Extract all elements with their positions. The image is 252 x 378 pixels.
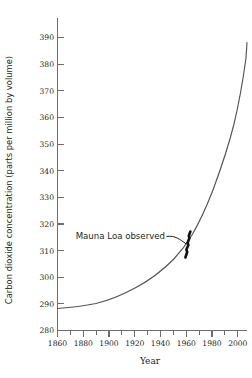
x-tick-label: 1900	[99, 339, 118, 348]
x-tick-label: 2000	[228, 339, 247, 348]
y-axis-ticks: 390 380 370 360 350 340 330 320 310 300 …	[40, 33, 64, 335]
x-axis-title: Year	[139, 356, 161, 366]
co2-concentration-line-chart: Carbon dioxide concentration (parts per …	[0, 0, 252, 378]
x-tick-label: 1860	[48, 339, 67, 348]
y-tick-label: 380	[40, 60, 55, 69]
y-tick-label: 390	[40, 33, 55, 42]
y-tick-label: 290	[40, 300, 55, 309]
y-tick-label: 310	[40, 247, 55, 256]
y-axis-title: Carbon dioxide concentration (parts per …	[4, 56, 14, 304]
co2-curve-series	[58, 43, 248, 309]
annotation-mauna-loa-observed: Mauna Loa observed	[76, 231, 165, 241]
y-tick-label: 280	[40, 326, 55, 335]
y-tick-label: 360	[40, 113, 55, 122]
y-tick-label: 300	[40, 273, 55, 282]
figure-container: Carbon dioxide concentration (parts per …	[0, 0, 252, 378]
y-tick-label: 320	[40, 220, 55, 229]
y-tick-label: 330	[40, 193, 55, 202]
y-tick-label: 340	[40, 167, 55, 176]
x-tick-label: 1980	[202, 339, 221, 348]
annotation-leader-line	[167, 236, 187, 244]
y-tick-label: 370	[40, 87, 55, 96]
x-tick-label: 1940	[151, 339, 170, 348]
x-tick-label: 1920	[125, 339, 144, 348]
x-tick-label: 1880	[74, 339, 93, 348]
x-tick-label: 1960	[177, 339, 196, 348]
x-axis-ticks: 1860 1880 1900 1920 1940 1960 1980 2000	[48, 331, 248, 349]
y-tick-label: 350	[40, 140, 55, 149]
